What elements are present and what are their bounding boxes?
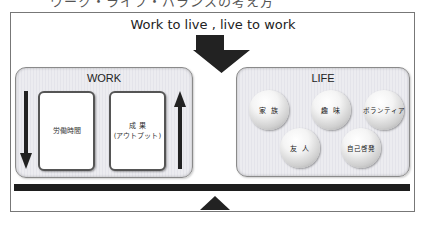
family-ball: 家 族: [249, 90, 289, 130]
hobby-ball: 趣 味: [311, 90, 351, 130]
output-card: 成 果 (アウトプット): [109, 91, 166, 171]
volunteer-ball: ボランティア: [364, 90, 404, 130]
working-hours-card: 労働時間: [38, 91, 95, 171]
work-panel: WORK 労働時間 成 果 (アウトプット): [15, 67, 193, 178]
self-development-ball: 自己啓発: [341, 128, 381, 168]
arrow-up-icon: [174, 91, 186, 169]
output-label: 成 果: [114, 121, 161, 131]
output-sublabel: (アウトプット): [114, 131, 161, 141]
work-title: WORK: [16, 72, 192, 84]
working-hours-label: 労働時間: [53, 126, 81, 136]
headline: Work to live , live to work: [0, 17, 426, 32]
cropped-title-text: ワーク・ライフ・バランスの考え方: [50, 0, 274, 10]
fulcrum-triangle-icon: [200, 196, 230, 210]
life-panel: LIFE 家 族 趣 味 ボランティア 友 人 自己啓発: [236, 67, 410, 177]
life-title: LIFE: [237, 72, 409, 84]
friends-ball: 友 人: [280, 128, 320, 168]
balance-beam: [14, 184, 410, 191]
arrow-down-icon: [20, 91, 32, 169]
